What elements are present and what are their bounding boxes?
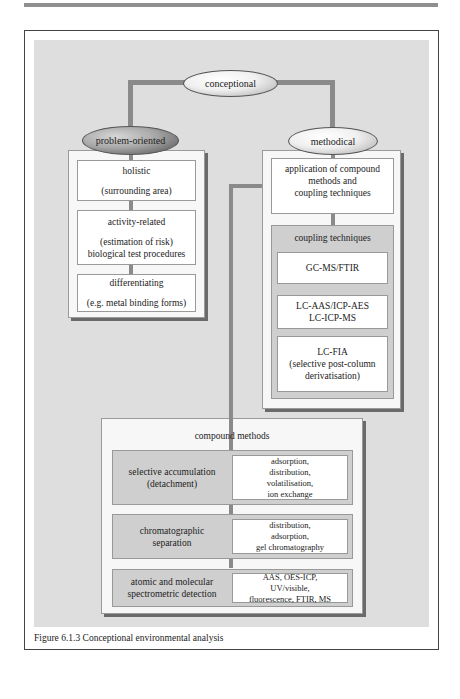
row3-name-line1: atomic and molecular xyxy=(114,576,230,588)
box-activity-title: activity-related xyxy=(108,216,166,228)
box-differentiating-detail: (e.g. metal binding forms) xyxy=(87,297,186,309)
row-chromatographic-name: chromatographic separation xyxy=(114,525,230,549)
box-lc-fia-line1: LC-FIA xyxy=(317,346,348,358)
node-problem-oriented-label: problem-oriented xyxy=(96,135,165,146)
row1-name-line1: selective accumulation xyxy=(114,466,230,478)
box-differentiating-title: differentiating xyxy=(109,277,163,289)
row-spectrometric-name: atomic and molecular spectrometric detec… xyxy=(114,576,230,600)
row-selective-accumulation-name: selective accumulation (detachment) xyxy=(114,466,230,490)
row1-method-3: volatilisation, xyxy=(267,478,314,489)
box-lc-fia-line2: (selective post-column xyxy=(289,358,375,370)
coupling-techniques-title: coupling techniques xyxy=(271,232,394,244)
box-application: application of compound methods and coup… xyxy=(271,158,394,214)
row1-method-1: adsorption, xyxy=(271,456,309,467)
row2-method-1: distribution, xyxy=(269,520,310,531)
node-conceptional: conceptional xyxy=(183,70,278,97)
node-methodical: methodical xyxy=(288,127,378,155)
row2-name-line1: chromatographic xyxy=(114,525,230,537)
box-gc-ms-ftir: GC-MS/FTIR xyxy=(277,252,388,284)
row-selective-accumulation-methods: adsorption, distribution, volatilisation… xyxy=(232,455,348,500)
connector-application-to-compound-h xyxy=(229,184,265,188)
node-methodical-label: methodical xyxy=(311,136,355,147)
box-holistic-detail: (surrounding area) xyxy=(101,185,171,197)
box-holistic: holistic (surrounding area) xyxy=(77,160,196,201)
box-application-line2: methods and xyxy=(308,175,356,187)
box-lc-aas-line1: LC-AAS/ICP-AES xyxy=(296,300,369,312)
row2-method-3: gel chromatography xyxy=(256,542,324,553)
box-application-line3: coupling techniques xyxy=(294,187,370,199)
node-conceptional-label: conceptional xyxy=(205,78,256,89)
connector-application-to-compound-v xyxy=(229,184,233,439)
row2-method-2: adsorption, xyxy=(271,531,309,542)
box-lc-aas: LC-AAS/ICP-AES LC-ICP-MS xyxy=(277,295,388,329)
row-spectrometric-methods: AAS, OES-ICP, UV/visible, fluorescence, … xyxy=(232,573,348,603)
box-lc-fia: LC-FIA (selective post-column derivatisa… xyxy=(277,336,388,392)
box-application-line1: application of compound xyxy=(285,163,380,175)
box-differentiating: differentiating (e.g. metal binding form… xyxy=(77,274,196,312)
row2-name-line2: separation xyxy=(114,537,230,549)
box-activity-related: activity-related (estimation of risk) bi… xyxy=(77,210,196,265)
compound-methods-title: compound methods xyxy=(101,430,363,442)
row-chromatographic-methods: distribution, adsorption, gel chromatogr… xyxy=(232,519,348,554)
node-problem-oriented: problem-oriented xyxy=(82,126,179,155)
box-gc-ms-ftir-label: GC-MS/FTIR xyxy=(306,262,359,274)
row1-method-2: distribution, xyxy=(269,467,310,478)
box-lc-fia-line3: derivatisation) xyxy=(305,370,360,382)
row3-method-1: AAS, OES-ICP, xyxy=(263,572,318,583)
figure-caption: Figure 6.1.3 Conceptional environmental … xyxy=(34,633,223,643)
row1-name-line2: (detachment) xyxy=(114,478,230,490)
box-activity-detail2: biological test procedures xyxy=(88,248,186,260)
row1-method-4: ion exchange xyxy=(267,489,312,500)
page-header-rule xyxy=(24,3,438,7)
box-holistic-title: holistic xyxy=(123,165,151,177)
row3-method-2: UV/visible, xyxy=(270,583,309,594)
box-lc-aas-line2: LC-ICP-MS xyxy=(309,312,356,324)
box-activity-detail: (estimation of risk) xyxy=(100,236,173,248)
row3-method-3: fluorescence, FTIR, MS xyxy=(249,594,331,605)
row3-name-line2: spectrometric detection xyxy=(114,588,230,600)
